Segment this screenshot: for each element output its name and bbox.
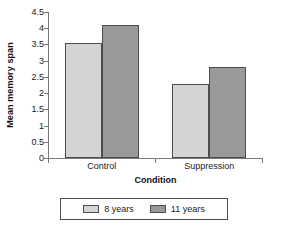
bar-suppression-11-years <box>209 67 246 158</box>
y-axis-title: Mean memory span <box>5 42 15 128</box>
y-axis-title-container: Mean memory span <box>0 0 20 170</box>
y-axis-tick-labels: 00.511.522.533.544.5 <box>18 12 44 158</box>
y-axis-tick <box>44 12 48 13</box>
y-axis-line <box>48 12 49 158</box>
legend-swatch-icon <box>150 205 166 213</box>
bar-suppression-8-years <box>172 84 209 158</box>
x-axis-line <box>48 158 263 159</box>
legend-entry-8-years[interactable]: 8 years <box>83 205 134 214</box>
y-axis-tick <box>44 61 48 62</box>
chart-legend: 8 years11 years <box>60 198 228 220</box>
y-axis-tick <box>44 28 48 29</box>
x-axis-category-label: Suppression <box>184 161 234 172</box>
legend-label: 8 years <box>104 205 134 214</box>
y-axis-tick <box>44 77 48 78</box>
y-axis-tick-label: 1.5 <box>31 105 44 114</box>
bar-control-11-years <box>102 25 139 158</box>
y-axis-tick <box>44 109 48 110</box>
legend-entry-11-years[interactable]: 11 years <box>150 205 205 214</box>
legend-swatch-icon <box>83 205 99 213</box>
bar-chart-figure: Mean memory span 00.511.522.533.544.5 Co… <box>0 0 286 234</box>
y-axis-tick <box>44 93 48 94</box>
y-axis-tick-label: 0.5 <box>31 137 44 146</box>
y-axis-tick-label: 4.5 <box>31 8 44 17</box>
x-axis-category-label: Control <box>87 161 116 172</box>
plot-area <box>48 12 263 158</box>
legend-label: 11 years <box>171 205 205 214</box>
y-axis-tick-label: 2.5 <box>31 72 44 81</box>
y-axis-tick <box>44 44 48 45</box>
x-axis-title: Condition <box>48 175 263 185</box>
y-axis-tick <box>44 126 48 127</box>
bar-control-8-years <box>65 43 102 158</box>
y-axis-tick-label: 3.5 <box>31 40 44 49</box>
y-axis-tick <box>44 142 48 143</box>
x-axis-category-labels: ControlSuppression <box>48 161 263 175</box>
